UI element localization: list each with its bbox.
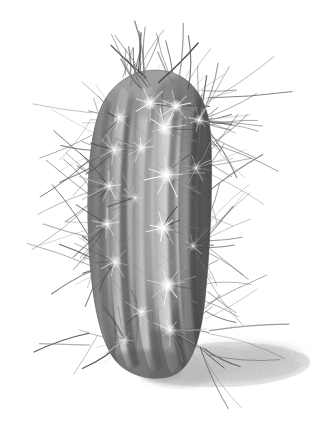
illustration-canvas [0,0,327,432]
spine [51,110,91,132]
spine [210,324,289,331]
spine [207,136,245,178]
areole-core [166,283,170,287]
spine [125,49,126,75]
areole-ray [125,340,134,341]
cactus-illustration [0,0,327,432]
areole-core [195,167,198,170]
spine [202,90,237,91]
areole-core [140,311,143,314]
areole-core [134,197,136,199]
areole-core [118,117,121,120]
areole-core [163,126,167,130]
areole-core [168,328,171,331]
areole-core [105,222,108,225]
areole-core [124,339,126,341]
areole-core [165,173,169,177]
areole-core [140,147,143,150]
areole-core [112,148,115,151]
areole-ray [167,175,182,176]
spine [74,336,98,374]
areole-core [198,119,201,122]
areole-core [192,245,194,247]
areole-core [108,185,111,188]
spine [33,104,93,113]
areole-ray [140,138,141,148]
spine [179,23,183,79]
spine [208,237,242,241]
areole-core [148,101,152,105]
spine [60,119,91,160]
areole-core [113,260,116,263]
areole-core [174,104,177,107]
spine [34,333,89,352]
spine [40,344,90,345]
areole-core [161,226,165,230]
